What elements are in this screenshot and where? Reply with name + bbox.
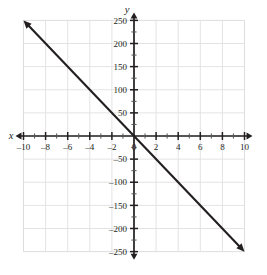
y-axis-label: y <box>124 4 130 15</box>
x-tick-label: 4 <box>176 142 181 152</box>
y-tick-label: –150 <box>108 201 128 211</box>
y-tick-label: 50 <box>118 108 128 118</box>
x-tick-label: 6 <box>198 142 203 152</box>
y-tick-label: –50 <box>113 154 128 164</box>
x-tick-label: –10 <box>16 142 31 152</box>
y-tick-label: 250 <box>114 16 128 26</box>
coordinate-plane-chart: –10–8–6–4–2024681025020015010050–50–100–… <box>0 0 267 275</box>
y-tick-label: 100 <box>114 85 128 95</box>
x-axis-label: x <box>8 130 14 141</box>
x-tick-label: 2 <box>154 142 159 152</box>
x-tick-label: 8 <box>220 142 225 152</box>
x-tick-label: –8 <box>40 142 51 152</box>
y-tick-label: 200 <box>114 39 128 49</box>
x-tick-label: –4 <box>84 142 95 152</box>
graph-container: –10–8–6–4–2024681025020015010050–50–100–… <box>0 0 267 275</box>
x-tick-label: –2 <box>106 142 116 152</box>
y-tick-label: 150 <box>114 62 128 72</box>
x-tick-label: 10 <box>240 142 250 152</box>
x-tick-label: 0 <box>132 142 137 152</box>
y-tick-label: –200 <box>108 224 128 234</box>
x-tick-label: –6 <box>62 142 73 152</box>
y-tick-label: –250 <box>108 247 128 257</box>
y-tick-label: –100 <box>108 177 128 187</box>
